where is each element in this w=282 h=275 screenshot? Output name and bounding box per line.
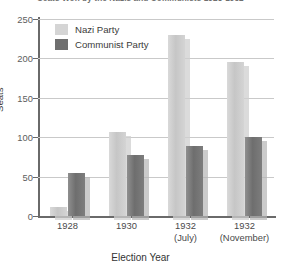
y-tick-label-150: 150 <box>3 92 33 103</box>
y-tick-mark-150 <box>33 98 38 99</box>
bar-body <box>109 132 126 216</box>
bar-body <box>68 173 85 216</box>
chart-title: Seats Won by the Nazis and Communists 19… <box>0 0 281 3</box>
bar-chart: Seats Won by the Nazis and Communists 19… <box>0 0 281 275</box>
y-tick-label-50: 50 <box>3 171 33 182</box>
bar-body <box>245 137 262 216</box>
bar-body <box>50 207 67 216</box>
bar-body <box>168 35 185 216</box>
legend-item-communist-party: Communist Party <box>55 37 149 51</box>
legend-swatch-nazi-party <box>55 24 68 35</box>
x-tick-label-3: 1932(November) <box>200 220 282 243</box>
bar-body <box>227 62 244 216</box>
bar-communist-party-2 <box>186 146 203 216</box>
bar-communist-party-3 <box>245 137 262 216</box>
x-tick-label-line2: (November) <box>200 232 282 244</box>
bar-communist-party-0 <box>68 173 85 216</box>
legend-label-communist-party: Communist Party <box>75 39 149 50</box>
gridline-200 <box>38 58 274 59</box>
y-axis-title: Seats <box>0 87 5 112</box>
legend-item-nazi-party: Nazi Party <box>55 22 149 36</box>
y-tick-mark-250 <box>33 19 38 20</box>
y-tick-mark-100 <box>33 137 38 138</box>
x-tick-label-line1: 1932 <box>200 220 282 232</box>
chart-legend: Nazi Party Communist Party <box>55 22 149 52</box>
y-tick-label-200: 200 <box>3 53 33 64</box>
gridline-250 <box>38 19 274 20</box>
y-tick-mark-50 <box>33 177 38 178</box>
y-tick-label-250: 250 <box>3 14 33 25</box>
bar-body <box>186 146 203 216</box>
y-tick-mark-0 <box>33 216 38 217</box>
y-tick-mark-200 <box>33 58 38 59</box>
legend-swatch-communist-party <box>55 39 68 50</box>
legend-label-nazi-party: Nazi Party <box>75 24 119 35</box>
bar-nazi-party-1 <box>109 132 126 216</box>
bar-body <box>127 155 144 216</box>
bar-nazi-party-0 <box>50 207 67 216</box>
bar-nazi-party-2 <box>168 35 185 216</box>
bar-communist-party-1 <box>127 155 144 216</box>
y-tick-label-100: 100 <box>3 132 33 143</box>
x-axis-title: Election Year <box>0 252 281 263</box>
bar-nazi-party-3 <box>227 62 244 216</box>
